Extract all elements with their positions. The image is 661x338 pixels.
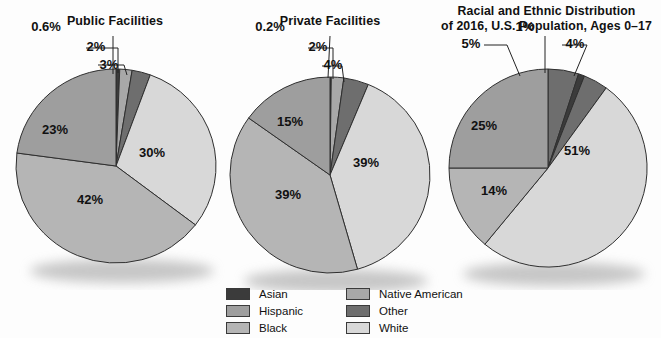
legend-item[interactable]: Hispanic (226, 303, 303, 319)
chart-us-population: Racial and Ethnic Distributionof 2016, U… (432, 0, 661, 290)
slice-value-label: 39% (353, 155, 379, 170)
callout-value-label: 5% (462, 36, 481, 51)
slice-value-label: 39% (275, 187, 301, 202)
pie-chart: 30%42%23%0.6%2%3% (0, 0, 230, 290)
slice-value-label: 42% (77, 192, 103, 207)
pie-area: 30%42%23%0.6%2%3% (0, 0, 230, 290)
legend-column-left: AsianHispanicBlack (226, 286, 303, 337)
callout-value-label: 2% (87, 39, 106, 54)
legend: AsianHispanicBlack Native AmericanOtherW… (226, 286, 466, 336)
pie-chart-figure: Public Facilities 30%42%23%0.6%2%3% Priv… (0, 0, 661, 338)
legend-swatch (346, 305, 370, 317)
slice-value-label: 25% (471, 118, 497, 133)
pie-area: 51%14%25%5%1%4% (432, 0, 661, 290)
legend-label: Native American (379, 288, 463, 300)
legend-item[interactable]: Asian (226, 286, 303, 302)
legend-swatch (346, 288, 370, 300)
legend-item[interactable]: Native American (346, 286, 463, 302)
legend-swatch (226, 288, 250, 300)
callout-value-label: 4% (324, 57, 343, 72)
callout-value-label: 1% (516, 19, 535, 34)
legend-label: Other (379, 305, 408, 317)
slice-value-label: 15% (277, 114, 303, 129)
legend-item[interactable]: Black (226, 320, 303, 336)
callout-value-label: 2% (309, 39, 328, 54)
pie-chart: 39%39%15%0.2%2%4% (220, 0, 440, 290)
legend-label: Black (259, 322, 287, 334)
callout-value-label: 0.6% (31, 19, 61, 34)
callout-leader-line (484, 45, 520, 76)
slice-value-label: 30% (139, 145, 165, 160)
slice-value-label: 14% (481, 183, 507, 198)
legend-column-right: Native AmericanOtherWhite (346, 286, 463, 337)
pie-area: 39%39%15%0.2%2%4% (220, 0, 440, 290)
legend-item[interactable]: Other (346, 303, 463, 319)
legend-label: White (379, 322, 408, 334)
slice-value-label: 23% (42, 122, 68, 137)
callout-value-label: 0.2% (255, 19, 285, 34)
chart-private-facilities: Private Facilities 39%39%15%0.2%2%4% (220, 0, 440, 290)
chart-public-facilities: Public Facilities 30%42%23%0.6%2%3% (0, 0, 230, 290)
callout-value-label: 4% (566, 36, 585, 51)
slice-value-label: 51% (564, 143, 590, 158)
pie-chart: 51%14%25%5%1%4% (432, 0, 661, 290)
legend-item[interactable]: White (346, 320, 463, 336)
callout-value-label: 3% (100, 57, 119, 72)
legend-label: Hispanic (259, 305, 303, 317)
legend-label: Asian (259, 288, 288, 300)
legend-swatch (346, 322, 370, 334)
pie-slice[interactable] (449, 69, 548, 168)
legend-swatch (226, 322, 250, 334)
pie-slice[interactable] (17, 69, 116, 166)
legend-swatch (226, 305, 250, 317)
